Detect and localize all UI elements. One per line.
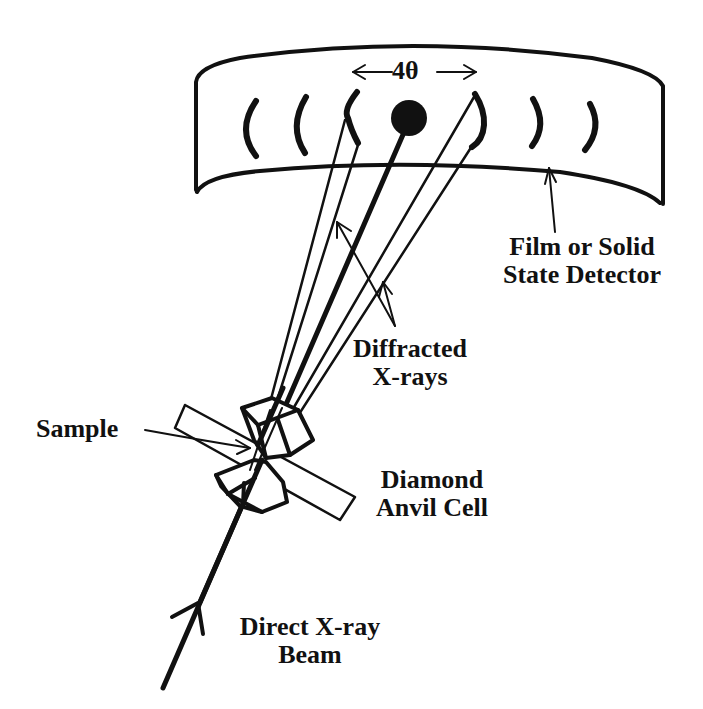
angle-label: 4θ <box>392 57 419 85</box>
beam-label-line2: Beam <box>220 641 400 669</box>
sample-label: Sample <box>36 415 118 443</box>
beam-label: Direct X-ray Beam <box>220 613 400 669</box>
dac-label-line2: Anvil Cell <box>352 494 512 522</box>
dac-label: Diamond Anvil Cell <box>352 466 512 522</box>
detector-label: Film or Solid State Detector <box>462 233 702 289</box>
detector-label-line2: State Detector <box>462 261 702 289</box>
central-beam-spot <box>391 100 427 136</box>
diffracted-label-line2: X-rays <box>330 363 490 391</box>
dac-label-line1: Diamond <box>352 466 512 494</box>
diffracted-rays <box>258 97 474 456</box>
detector-pointer <box>545 168 556 232</box>
beam-label-line1: Direct X-ray <box>220 613 400 641</box>
detector-label-line1: Film or Solid <box>462 233 702 261</box>
diffracted-label: Diffracted X-rays <box>330 335 490 391</box>
diffracted-label-line1: Diffracted <box>330 335 490 363</box>
